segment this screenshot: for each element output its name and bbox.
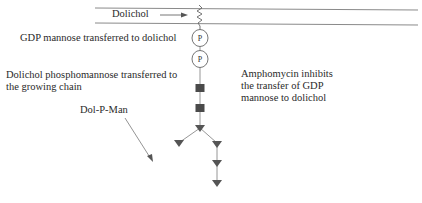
glycosylation-diagram: P P [0, 0, 422, 203]
square-node-2 [196, 104, 205, 112]
inhibitor-note: Amphomycin inhibits the transfer of GDP … [241, 68, 333, 104]
step2-label-line2: the growing chain [6, 81, 177, 93]
step2-label-line1: Dolichol phosphomannose transferred to [6, 69, 177, 81]
dolichol-label: Dolichol [112, 8, 149, 20]
inhibitor-line2: the transfer of GDP [241, 80, 333, 92]
triangle-node-4 [212, 160, 222, 167]
step2-label: Dolichol phosphomannose transferred to t… [6, 69, 177, 93]
phosphate-symbol: P [198, 34, 203, 43]
triangle-node-3 [212, 141, 222, 148]
triangle-node-5 [212, 180, 222, 187]
membrane-bottom-line [95, 23, 418, 25]
square-node-1 [196, 84, 205, 92]
phosphate-symbol: P [198, 55, 203, 64]
inhibitor-line3: mannose to dolichol [241, 92, 333, 104]
dolpman-label: Dol-P-Man [80, 104, 128, 116]
inhibitor-line1: Amphomycin inhibits [241, 68, 333, 80]
step1-label: GDP mannose transferred to dolichol [20, 32, 177, 44]
dolichol-arrow-icon [160, 13, 188, 18]
phosphate-circle-2: P [192, 51, 208, 68]
triangle-node-2 [174, 140, 184, 147]
dolpman-arrow-icon [125, 118, 153, 162]
phosphate-circle-1: P [192, 30, 208, 47]
